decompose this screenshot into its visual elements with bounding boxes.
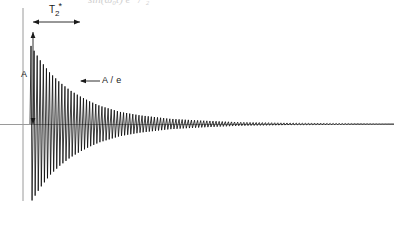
t2-star-measure-arrow xyxy=(33,20,80,25)
plot-canvas xyxy=(0,0,394,231)
t2-star-label: T2* xyxy=(49,5,63,15)
t2-star-label-superscript: * xyxy=(59,1,63,11)
fid-diagram-figure: sin(ω₀t) e⁻ᵗ/ᵀ₂* T2* A A / e xyxy=(0,0,394,231)
amplitude-label: A xyxy=(21,70,27,79)
fid-signal-trace xyxy=(30,46,394,201)
amplitude-over-e-leader-line xyxy=(80,79,100,83)
amplitude-over-e-label: A / e xyxy=(102,76,122,85)
